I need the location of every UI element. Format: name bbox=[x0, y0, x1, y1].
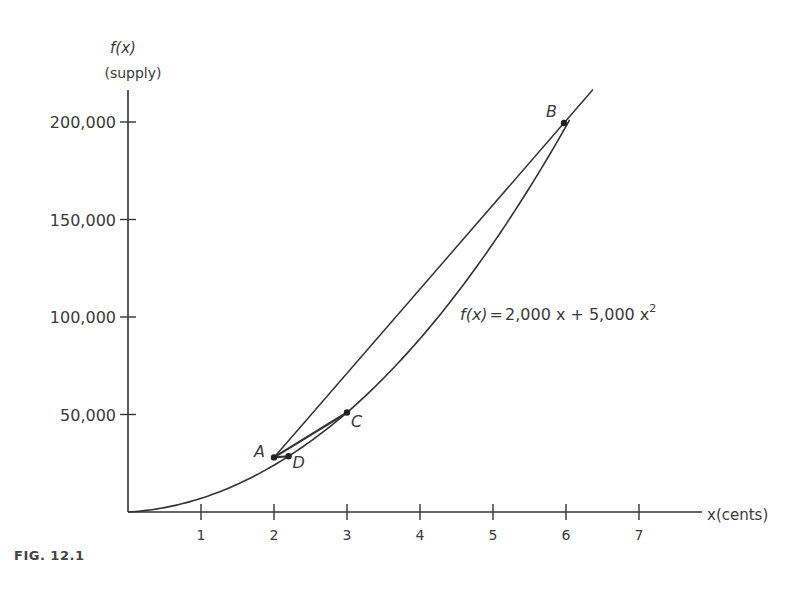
x-axis-label: x(cents) bbox=[707, 506, 768, 524]
x-tick-label: 7 bbox=[635, 527, 644, 543]
x-tick-label: 6 bbox=[562, 527, 571, 543]
equation-lhs: f(x) bbox=[460, 305, 488, 324]
equation-rhs: 2,000 x + 5,000 x bbox=[505, 305, 649, 324]
x-tick-label: 4 bbox=[416, 527, 425, 543]
point-c bbox=[344, 409, 350, 415]
y-tick-label: 200,000 bbox=[50, 113, 116, 132]
x-tick-label: 2 bbox=[270, 527, 279, 543]
chart-svg: 1234567 50,000100,000150,000200,000 f(x)… bbox=[0, 0, 810, 596]
y-axis-sublabel: (supply) bbox=[104, 65, 161, 81]
x-tick-label: 5 bbox=[489, 527, 498, 543]
secant-line-ac bbox=[274, 413, 347, 458]
figure-label: FIG. 12.1 bbox=[14, 548, 84, 563]
x-tick-label: 1 bbox=[197, 527, 206, 543]
point-label-c: C bbox=[351, 412, 363, 431]
point-a bbox=[271, 454, 277, 460]
point-d bbox=[285, 453, 291, 459]
supply-curve bbox=[128, 120, 570, 512]
y-tick-label: 150,000 bbox=[50, 211, 116, 230]
y-tick-label: 100,000 bbox=[50, 308, 116, 327]
y-tick-label: 50,000 bbox=[60, 406, 116, 425]
y-axis-label: f(x) bbox=[110, 39, 136, 57]
equation-label: f(x)=2,000 x + 5,000 x2 bbox=[460, 302, 656, 324]
point-label-a: A bbox=[253, 442, 265, 461]
point-b bbox=[561, 120, 567, 126]
secant-line-ab bbox=[274, 90, 593, 458]
equation-equals: = bbox=[490, 305, 503, 324]
x-tick-label: 3 bbox=[343, 527, 352, 543]
point-label-b: B bbox=[546, 102, 557, 121]
point-label-d: D bbox=[293, 453, 305, 472]
equation-exponent: 2 bbox=[649, 302, 656, 315]
